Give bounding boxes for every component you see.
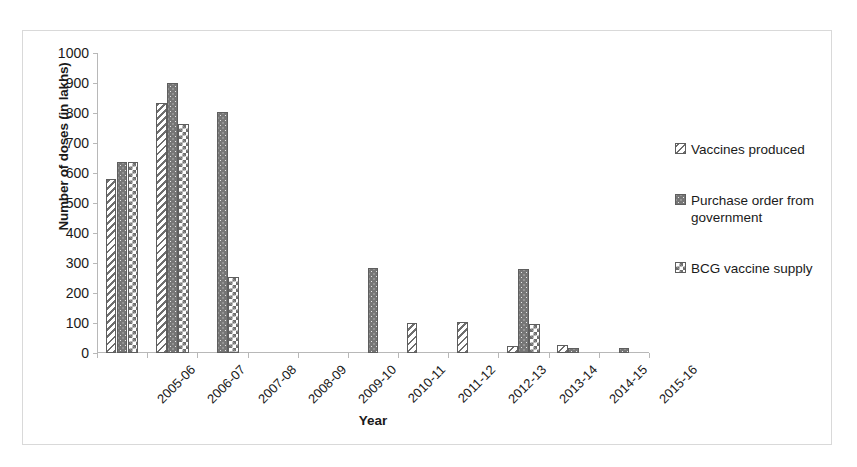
y-axis-tick-label: 0 <box>37 345 89 361</box>
y-axis-tick-label: 600 <box>37 165 89 181</box>
x-axis-tick-label: 2012-13 <box>505 362 549 406</box>
x-axis-tick-mark <box>348 353 349 358</box>
y-axis-tick-label: 300 <box>37 255 89 271</box>
legend-item[interactable]: Purchase order from government <box>675 192 825 226</box>
x-axis-tick-label: 2005-06 <box>154 362 198 406</box>
legend-item[interactable]: BCG vaccine supply <box>675 260 825 277</box>
y-axis-tick-label: 500 <box>37 195 89 211</box>
x-axis-tick-mark <box>248 353 249 358</box>
bar-group <box>298 53 348 353</box>
bar <box>568 348 579 353</box>
x-axis-tick-label: 2006-07 <box>204 362 248 406</box>
y-axis-tick-label: 1000 <box>37 45 89 61</box>
bar-group <box>348 53 398 353</box>
y-axis-tick-label: 400 <box>37 225 89 241</box>
bar-group <box>498 53 548 353</box>
bar <box>619 348 630 353</box>
y-axis-tick-label: 700 <box>37 135 89 151</box>
x-axis-tick-mark <box>147 353 148 358</box>
x-axis-tick-label: 2014-15 <box>606 362 650 406</box>
x-axis-tick-mark <box>398 353 399 358</box>
x-axis-tick-mark <box>549 353 550 358</box>
checkerboard-swatch-icon <box>675 262 686 273</box>
x-axis-tick-mark <box>599 353 600 358</box>
x-axis-tick-mark <box>97 353 98 358</box>
bar <box>117 162 128 353</box>
legend-item[interactable]: Vaccines produced <box>675 141 825 158</box>
bar-group <box>398 53 448 353</box>
bar-group <box>549 53 599 353</box>
x-axis-tick-mark <box>649 353 650 358</box>
bar-group <box>97 53 147 353</box>
legend-item-label: Purchase order from government <box>691 192 825 226</box>
bar <box>106 179 117 353</box>
diagonal-stripes-swatch-icon <box>675 143 686 154</box>
y-axis-tick-label: 200 <box>37 285 89 301</box>
bar <box>178 124 189 353</box>
x-axis-tick-mark <box>448 353 449 358</box>
bar <box>557 345 568 353</box>
x-axis-tick-label: 2011-12 <box>455 362 499 406</box>
y-axis-tick-label: 900 <box>37 75 89 91</box>
bar <box>156 103 167 354</box>
x-axis-tick-label: 2013-14 <box>556 362 600 406</box>
y-axis-tick-label: 100 <box>37 315 89 331</box>
bar <box>407 323 418 353</box>
bar <box>518 269 529 353</box>
bar <box>529 324 540 353</box>
x-axis-tick-label: 2007-08 <box>254 362 298 406</box>
x-axis-title: Year <box>97 413 649 428</box>
bar <box>217 112 228 354</box>
chart-frame: Number of doses (in lakhs) 0100200300400… <box>22 30 832 445</box>
x-axis-tick-label: 2009-10 <box>355 362 399 406</box>
chart-legend: Vaccines producedPurchase order from gov… <box>675 141 825 311</box>
legend-item-label: Vaccines produced <box>691 141 805 158</box>
bar <box>507 346 518 354</box>
y-axis-tick-label: 800 <box>37 105 89 121</box>
bar <box>457 322 468 353</box>
bar-group <box>599 53 649 353</box>
bar <box>228 277 239 353</box>
bar <box>167 83 178 353</box>
x-axis-tick-label: 2010-11 <box>405 362 449 406</box>
bar-group <box>448 53 498 353</box>
plot-area: 01002003004005006007008009001000 2005-06… <box>97 53 649 353</box>
solid-gray-dots-swatch-icon <box>675 194 686 205</box>
x-axis-tick-mark <box>498 353 499 358</box>
legend-item-label: BCG vaccine supply <box>691 260 813 277</box>
x-axis-tick-mark <box>197 353 198 358</box>
x-axis-tick-label: 2015-16 <box>656 362 700 406</box>
x-axis-tick-mark <box>298 353 299 358</box>
bar-group <box>197 53 247 353</box>
x-axis-tick-label: 2008-09 <box>305 362 349 406</box>
bar-group <box>248 53 298 353</box>
bar <box>128 162 139 353</box>
bar <box>368 268 379 353</box>
bar-group <box>147 53 197 353</box>
